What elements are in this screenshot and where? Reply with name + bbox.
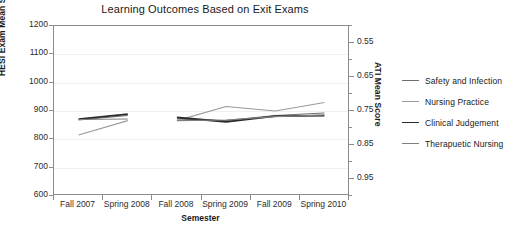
y-axis-right-minor-tick — [349, 195, 352, 196]
y-axis-left-tick-label: 900 — [0, 105, 48, 114]
y-axis-left-tick-mark — [49, 167, 53, 168]
legend-swatch-line-icon — [402, 101, 419, 102]
y-axis-right-tick-mark — [349, 76, 354, 77]
y-axis-left-tick-mark — [49, 53, 53, 54]
legend-label: Nursing Practice — [425, 97, 489, 107]
legend-item-2[interactable]: Clinical Judgement — [402, 112, 514, 133]
chart-legend: Safety and InfectionNursing PracticeClin… — [402, 70, 514, 154]
legend-label: Clinical Judgement — [425, 118, 499, 128]
chart-container: Learning Outcomes Based on Exit Exams HE… — [0, 0, 516, 240]
y-axis-right-tick-mark — [349, 144, 354, 145]
y-axis-right-minor-tick — [349, 25, 352, 26]
y-axis-right-tick-mark — [349, 42, 354, 43]
y-axis-left-tick-label: 1200 — [0, 20, 48, 29]
y-axis-left-tick-label: 1100 — [0, 48, 48, 57]
y-axis-left-title: HESI Exam Mean Score — [0, 0, 7, 76]
y-axis-right-tick-label: 0.65 — [357, 71, 374, 80]
y-axis-left-tick-label: 800 — [0, 133, 48, 142]
series-line-1-segment-0 — [79, 121, 128, 135]
legend-swatch-line-icon — [402, 122, 419, 123]
y-axis-right-tick-label: 0.75 — [357, 105, 374, 114]
y-axis-left-tick-mark — [49, 138, 53, 139]
y-axis-right-tick-mark — [349, 110, 354, 111]
y-axis-left-tick-label: 700 — [0, 162, 48, 171]
y-axis-left-tick-label: 600 — [0, 190, 48, 199]
y-axis-right-title: ATI Mean Score — [373, 62, 383, 172]
y-axis-left-tick-label: 1000 — [0, 77, 48, 86]
chart-title: Learning Outcomes Based on Exit Exams — [60, 3, 350, 15]
legend-item-0[interactable]: Safety and Infection — [402, 70, 514, 91]
y-axis-right-minor-tick — [349, 161, 352, 162]
y-axis-right-minor-tick — [349, 93, 352, 94]
y-axis-right-minor-tick — [349, 59, 352, 60]
y-axis-right-minor-tick — [349, 127, 352, 128]
x-axis-title: Semester — [53, 213, 348, 223]
legend-swatch-line-icon — [402, 80, 419, 81]
legend-swatch-line-icon — [402, 143, 419, 144]
y-axis-left-tick-mark — [49, 110, 53, 111]
y-axis-left-tick-mark — [49, 25, 53, 26]
legend-label: Therapuetic Nursing — [425, 139, 503, 149]
series-lines — [54, 26, 349, 196]
y-axis-left-tick-mark — [49, 82, 53, 83]
y-axis-right-tick-label: 0.85 — [357, 139, 374, 148]
series-line-3-segment-0 — [79, 119, 128, 120]
legend-item-3[interactable]: Therapuetic Nursing — [402, 133, 514, 154]
plot-area — [53, 25, 348, 195]
legend-item-1[interactable]: Nursing Practice — [402, 91, 514, 112]
legend-label: Safety and Infection — [425, 76, 502, 86]
y-axis-right-tick-label: 0.95 — [357, 173, 374, 182]
y-axis-right-tick-mark — [349, 178, 354, 179]
y-axis-right-tick-label: 0.55 — [357, 37, 374, 46]
x-axis-tick-label: Spring 2010 — [293, 200, 353, 209]
